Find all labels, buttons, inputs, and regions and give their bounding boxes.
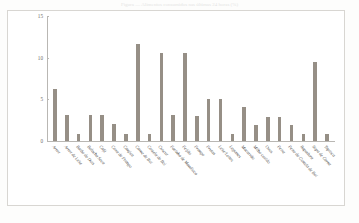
x-label-cell: Milho cozido [250, 143, 262, 205]
x-tick-label: Tapioca [323, 144, 336, 158]
bar-cell [144, 16, 156, 141]
x-label-cell: Legumes [226, 143, 238, 205]
bar-cell [203, 16, 215, 141]
x-axis-line [47, 141, 335, 142]
x-label-cell: Peixe [274, 143, 286, 205]
bar-cell [321, 16, 333, 141]
x-label-cell: Peito de Costela de Boi [286, 143, 298, 205]
y-tick-label: 15 [38, 13, 47, 19]
bar [325, 134, 329, 141]
x-label-cell: Feijão [179, 143, 191, 205]
x-label-cell: Ovos [262, 143, 274, 205]
bar [254, 125, 258, 141]
x-label-cell: Tapioca [321, 143, 333, 205]
bar [136, 44, 140, 142]
bar [219, 99, 223, 142]
bar-cell [108, 16, 120, 141]
x-label-cell: Sopa de Carne [309, 143, 321, 205]
x-label-cell: Coxa de Frango [108, 143, 120, 205]
bar-cell [73, 16, 85, 141]
bar-cell [49, 16, 61, 141]
bar [290, 125, 294, 141]
bar-cell [226, 16, 238, 141]
bar [124, 134, 128, 142]
x-label-cell: Macarrão [238, 143, 250, 205]
bar-cell [191, 16, 203, 141]
y-tick-mark [47, 141, 49, 142]
bar-cell [84, 16, 96, 141]
figure-caption: Figura — Alimentos consumidos nas última… [0, 0, 359, 9]
x-label-cell: Frutas [203, 143, 215, 205]
bar [53, 89, 57, 141]
x-label-cell: Leite/Leites [215, 143, 227, 205]
bar [112, 124, 116, 141]
x-label-cell: Baião de Dois [73, 143, 85, 205]
bar [207, 99, 211, 142]
x-label-cell: Canjica [120, 143, 132, 205]
x-label-cell: Café [96, 143, 108, 205]
bar [183, 53, 187, 141]
y-tick-label: 10 [38, 55, 47, 61]
bar-cell [179, 16, 191, 141]
bar [77, 134, 81, 142]
x-label-cell: Carne de Boi [132, 143, 144, 205]
bar-cell [262, 16, 274, 141]
bar-cell [61, 16, 73, 141]
bar [242, 107, 246, 141]
plot-area: 051015 [47, 16, 335, 141]
bar [65, 115, 69, 141]
x-label-cell: Farinha de Mandioca [167, 143, 179, 205]
bar-cell [238, 16, 250, 141]
bar [278, 117, 282, 141]
x-label-cell: Cuscuz [155, 143, 167, 205]
bar-cell [215, 16, 227, 141]
x-label-cell: Arroz [49, 143, 61, 205]
y-axis-title: Alimentos Consumidos nas últimas 24h (%) [10, 0, 24, 22]
bar [195, 116, 199, 141]
bar-cell [120, 16, 132, 141]
bar [171, 115, 175, 141]
x-label-cell: Rapadura [297, 143, 309, 205]
bar-cell [132, 16, 144, 141]
bar [148, 134, 152, 142]
x-tick-label: Café [99, 144, 108, 154]
x-label-cell: Arroz de Leite [61, 143, 73, 205]
bar-cell [155, 16, 167, 141]
y-tick-label: 0 [40, 138, 47, 144]
y-tick-label: 5 [40, 96, 47, 102]
x-label-cell: Bolacha Seca [84, 143, 96, 205]
bar [100, 115, 104, 141]
bar [266, 117, 270, 141]
bar-cell [286, 16, 298, 141]
bar-cell [309, 16, 321, 141]
bar-cell [167, 16, 179, 141]
x-label-cell: Frango [191, 143, 203, 205]
x-label-cell: Costela de Boi [144, 143, 156, 205]
bar [302, 134, 306, 141]
bar-cell [250, 16, 262, 141]
bar [160, 53, 164, 141]
x-axis-labels: ArrozArroz de LeiteBaião de DoisBolacha … [47, 143, 335, 205]
bar-cell [297, 16, 309, 141]
x-tick-label: Ovos [264, 144, 274, 154]
bar [313, 62, 317, 141]
bar [89, 115, 93, 141]
bar-series [47, 16, 335, 141]
bar-cell [96, 16, 108, 141]
bar-cell [274, 16, 286, 141]
bar [231, 134, 235, 142]
chart-figure: Figura — Alimentos consumidos nas última… [0, 0, 359, 223]
